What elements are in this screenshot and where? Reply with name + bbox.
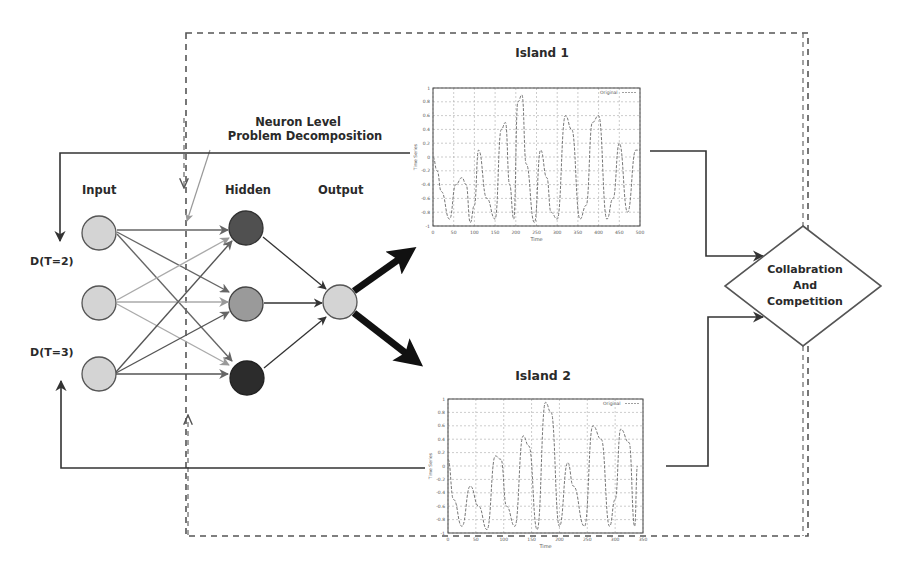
island1-to-decision [650, 151, 763, 256]
island1-chart: 05010015020025030035040045050010.80.60.4… [413, 86, 644, 243]
output-to-island2-arrow [354, 313, 412, 358]
svg-text:Time Series: Time Series [428, 452, 433, 480]
svg-text:200: 200 [512, 230, 521, 235]
svg-text:0.2: 0.2 [423, 141, 430, 146]
svg-text:50: 50 [451, 230, 457, 235]
delay-label-top: D(T=2) [30, 255, 74, 268]
svg-text:0.6: 0.6 [438, 423, 445, 428]
hidden-node-2 [229, 287, 263, 321]
svg-text:1: 1 [442, 397, 445, 402]
svg-text:450: 450 [615, 230, 624, 235]
svg-text:0: 0 [432, 230, 435, 235]
input-node-1 [82, 216, 116, 250]
svg-text:Original: Original [603, 401, 621, 406]
svg-text:1: 1 [427, 86, 430, 91]
svg-text:350: 350 [574, 230, 583, 235]
hidden-node-3 [230, 361, 264, 395]
svg-text:100: 100 [499, 537, 508, 542]
svg-text:50: 50 [473, 537, 479, 542]
svg-text:0.4: 0.4 [438, 437, 445, 442]
decision-label-line2: And [793, 279, 817, 292]
output-to-island1-arrow [354, 255, 405, 291]
svg-text:-0.2: -0.2 [436, 477, 445, 482]
svg-text:0.2: 0.2 [438, 450, 445, 455]
svg-text:300: 300 [611, 537, 620, 542]
svg-text:250: 250 [583, 537, 592, 542]
svg-text:0: 0 [427, 155, 430, 160]
annotation-text-line2: Problem Decomposition [228, 129, 382, 143]
hidden-output-edges [263, 237, 326, 368]
decision-label-line1: Collabration [767, 263, 843, 276]
decision-label-line3: Competition [767, 295, 843, 308]
svg-text:-0.4: -0.4 [436, 490, 445, 495]
svg-text:-1: -1 [426, 224, 431, 229]
annotation-pointer [187, 150, 210, 221]
svg-text:-0.6: -0.6 [436, 504, 445, 509]
svg-text:350: 350 [639, 537, 648, 542]
svg-text:-0.8: -0.8 [436, 517, 445, 522]
svg-text:0.4: 0.4 [423, 127, 430, 132]
island1-title: Island 1 [515, 46, 568, 60]
island2-title: Island 2 [515, 368, 571, 383]
svg-text:-0.8: -0.8 [421, 210, 430, 215]
svg-text:Time: Time [529, 236, 542, 242]
output-layer-label: Output [318, 183, 364, 197]
svg-text:0.8: 0.8 [423, 99, 430, 104]
svg-text:0.8: 0.8 [438, 410, 445, 415]
input-node-3 [82, 357, 116, 391]
svg-text:300: 300 [553, 230, 562, 235]
svg-text:100: 100 [470, 230, 479, 235]
island-frame [186, 33, 808, 536]
svg-text:Time Series: Time Series [413, 143, 418, 171]
output-node [323, 285, 357, 319]
svg-text:0: 0 [442, 464, 445, 469]
annotation-text-line1: Neuron Level [255, 115, 341, 129]
svg-text:200: 200 [555, 537, 564, 542]
input-layer-label: Input [82, 183, 117, 197]
input-hidden-edges [116, 230, 232, 374]
hidden-node-1 [229, 211, 263, 245]
svg-text:150: 150 [491, 230, 500, 235]
svg-text:-0.4: -0.4 [421, 182, 430, 187]
svg-text:0.6: 0.6 [423, 113, 430, 118]
diagram-canvas: Neuron Level Problem Decomposition Input… [0, 0, 909, 580]
input-node-2 [82, 286, 116, 320]
svg-text:-0.6: -0.6 [421, 196, 430, 201]
svg-text:500: 500 [636, 230, 645, 235]
svg-text:Time: Time [538, 543, 551, 549]
hidden-layer-label: Hidden [225, 183, 271, 197]
svg-text:Original: Original [600, 90, 618, 95]
island2-chart: 05010015020025030035010.80.60.40.20-0.2-… [428, 397, 647, 550]
svg-text:-1: -1 [441, 531, 446, 536]
svg-text:-0.2: -0.2 [421, 168, 430, 173]
svg-text:150: 150 [527, 537, 536, 542]
svg-text:400: 400 [594, 230, 603, 235]
svg-text:0: 0 [447, 537, 450, 542]
island2-to-decision [666, 317, 763, 466]
svg-text:250: 250 [532, 230, 541, 235]
delay-label-bottom: D(T=3) [30, 346, 74, 359]
